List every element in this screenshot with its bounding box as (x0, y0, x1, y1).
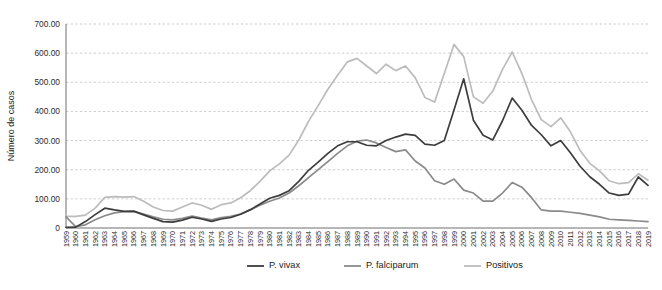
series-group (66, 44, 648, 227)
x-tick-label: 2008 (537, 231, 546, 247)
chart-canvas: 0100.00200.00300.00400.00500.00600.00700… (0, 0, 662, 280)
x-tick-label: 1964 (110, 231, 119, 247)
y-tick-label: 600.00 (34, 48, 60, 58)
x-tick-label: 1988 (343, 231, 352, 247)
x-tick-label: 1960 (71, 231, 80, 247)
x-tick-label: 1968 (149, 231, 158, 247)
x-tick-label: 2017 (624, 231, 633, 247)
axis-lines (66, 24, 648, 228)
x-tick-label: 1972 (188, 231, 197, 247)
y-tick-label: 100.00 (34, 194, 60, 204)
x-tick-label: 2006 (517, 231, 526, 247)
x-tick-label: 2009 (547, 231, 556, 247)
x-tick-label: 1978 (246, 231, 255, 247)
x-tick-label: 1989 (353, 231, 362, 247)
series-line-p-vivax (66, 79, 648, 228)
x-tick-label: 1962 (91, 231, 100, 247)
x-tick-label: 1995 (411, 231, 420, 247)
y-axis-tick-labels: 0100.00200.00300.00400.00500.00600.00700… (34, 19, 60, 233)
x-tick-label: 1981 (275, 231, 284, 247)
series-line-p-falciparum (66, 140, 648, 227)
x-tick-label: 2013 (585, 231, 594, 247)
x-tick-label: 1986 (323, 231, 332, 247)
x-tick-label: 1992 (382, 231, 391, 247)
x-tick-label: 1975 (217, 231, 226, 247)
x-tick-label: 1997 (430, 231, 439, 247)
legend-label-2: P. falciparum (366, 260, 419, 270)
x-tick-label: 2014 (595, 231, 604, 247)
y-tick-label: 700.00 (34, 19, 60, 29)
x-tick-label: 1996 (420, 231, 429, 247)
x-tick-label: 1973 (197, 231, 206, 247)
x-tick-label: 2002 (479, 231, 488, 247)
x-tick-label: 2018 (634, 231, 643, 247)
x-tick-label: 1983 (294, 231, 303, 247)
y-tick-label: 300.00 (34, 136, 60, 146)
x-tick-label: 1974 (207, 231, 216, 247)
y-tick-label: 500.00 (34, 77, 60, 87)
x-tick-label: 1966 (129, 231, 138, 247)
caption-strip (0, 279, 662, 290)
chart-legend: P. vivaxP. falciparumPositivos (247, 260, 523, 270)
x-tick-label: 1990 (362, 231, 371, 247)
y-axis-title: Número de casos (6, 90, 16, 161)
x-axis-tick-labels: 1959196019611962196319641965196619671968… (62, 231, 653, 247)
x-tick-label: 1965 (120, 231, 129, 247)
x-tick-label: 1971 (178, 231, 187, 247)
x-tick-label: 1963 (100, 231, 109, 247)
x-tick-label: 1991 (372, 231, 381, 247)
x-tick-label: 2003 (488, 231, 497, 247)
figure-container: 0100.00200.00300.00400.00500.00600.00700… (0, 0, 662, 290)
x-tick-label: 1976 (226, 231, 235, 247)
y-tick-label: 400.00 (34, 106, 60, 116)
x-tick-label: 2016 (614, 231, 623, 247)
x-tick-label: 2012 (576, 231, 585, 247)
x-tick-label: 1985 (314, 231, 323, 247)
line-chart: 0100.00200.00300.00400.00500.00600.00700… (0, 0, 662, 280)
legend-label-3: Positivos (486, 260, 523, 270)
x-tick-label: 2011 (566, 231, 575, 246)
x-tick-label: 1977 (236, 231, 245, 247)
x-tick-label: 1970 (168, 231, 177, 247)
x-tick-label: 1998 (440, 231, 449, 247)
x-tick-label: 2005 (508, 231, 517, 247)
x-tick-label: 1961 (81, 231, 90, 247)
x-tick-label: 1959 (62, 231, 71, 247)
series-line-positivos (66, 44, 648, 216)
x-tick-label: 1967 (139, 231, 148, 247)
legend-label-1: P. vivax (269, 260, 300, 270)
x-tick-label: 1980 (265, 231, 274, 247)
x-tick-label: 1987 (333, 231, 342, 247)
x-tick-label: 1993 (391, 231, 400, 247)
x-tick-label: 1999 (450, 231, 459, 247)
x-tick-label: 2001 (469, 231, 478, 247)
x-tick-label: 2015 (605, 231, 614, 247)
x-tick-label: 1994 (401, 231, 410, 247)
x-tick-label: 2004 (498, 231, 507, 247)
x-tick-label: 2007 (527, 231, 536, 247)
y-tick-label: 0 (55, 223, 60, 233)
x-tick-label: 1982 (285, 231, 294, 247)
x-tick-label: 2019 (644, 231, 653, 247)
x-tick-label: 1969 (159, 231, 168, 247)
x-tick-label: 2010 (556, 231, 565, 247)
y-tick-label: 200.00 (34, 165, 60, 175)
x-tick-label: 2000 (459, 231, 468, 247)
gridline-group (66, 24, 648, 199)
x-tick-label: 1979 (256, 231, 265, 247)
x-tick-label: 1984 (304, 231, 313, 247)
